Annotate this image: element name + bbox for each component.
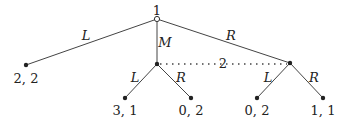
decision-node-right xyxy=(288,61,292,65)
payoff-label: 1, 1 xyxy=(311,103,336,118)
terminal-node xyxy=(24,63,28,67)
decision-node-mid xyxy=(155,62,159,66)
edge-label: L xyxy=(81,28,91,43)
payoff-label: 2, 2 xyxy=(14,71,39,86)
terminal-node xyxy=(255,96,259,100)
terminal-node xyxy=(321,96,325,100)
payoff-label: 3, 1 xyxy=(113,103,138,118)
player-label-root: 1 xyxy=(153,3,161,18)
edge-label: L xyxy=(130,70,140,85)
payoff-label: 0, 2 xyxy=(179,103,204,118)
edge-right-L xyxy=(257,63,290,98)
game-tree: 1 2 L M R L R L R 2, 2 3, 1 0, 2 0, 2 1,… xyxy=(0,0,346,123)
edge-label: R xyxy=(225,28,236,43)
payoff-label: 0, 2 xyxy=(245,103,270,118)
terminal-node xyxy=(123,96,127,100)
edge-root-L xyxy=(26,19,157,65)
edge-label: R xyxy=(175,70,186,85)
edge-label: M xyxy=(157,35,172,50)
information-set-label: 2 xyxy=(219,56,227,71)
terminal-node xyxy=(189,96,193,100)
edge-label: R xyxy=(308,70,319,85)
edge-label: L xyxy=(263,70,273,85)
